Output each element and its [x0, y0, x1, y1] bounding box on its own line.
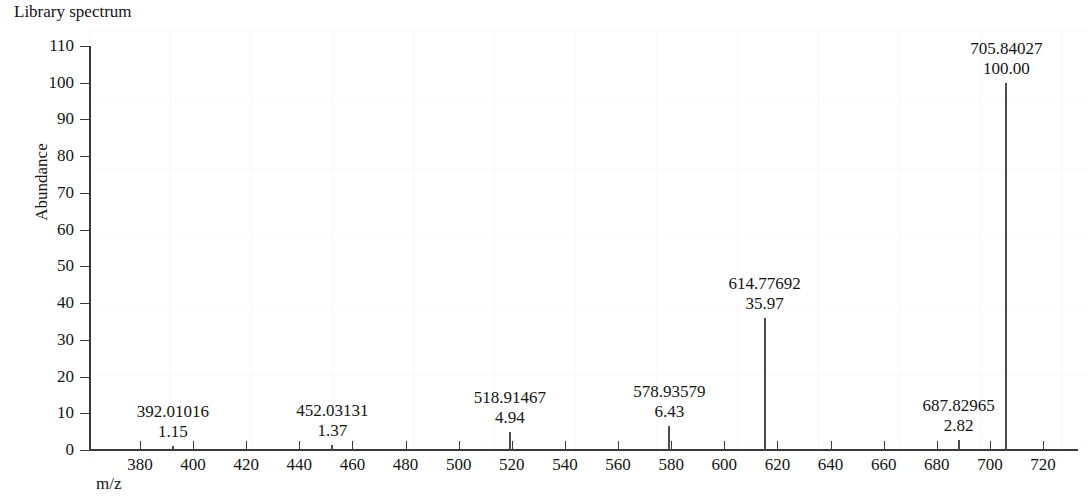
y-tick-30	[80, 340, 89, 341]
y-tick-110	[80, 46, 89, 47]
peak-line	[668, 426, 670, 450]
x-tick-label: 520	[482, 455, 542, 474]
peak-label: 614.7769235.97	[690, 274, 840, 314]
peak-label: 687.829652.82	[884, 396, 1034, 436]
peak-line	[172, 446, 174, 450]
y-tick-label: 70	[34, 184, 74, 201]
x-tick-label: 500	[429, 455, 489, 474]
y-tick-0	[80, 450, 89, 451]
y-tick-50	[80, 266, 89, 267]
spectrum-plot-area: 392.010161.15452.031311.37518.914674.945…	[89, 46, 1078, 450]
peak-label: 578.935796.43	[594, 382, 744, 422]
y-tick-label: 0	[34, 441, 74, 458]
x-tick-label: 400	[163, 455, 223, 474]
y-tick-label: 110	[34, 37, 74, 54]
y-tick-80	[80, 156, 89, 157]
peak-line	[1005, 83, 1007, 450]
x-tick-label: 420	[216, 455, 276, 474]
y-tick-label: 100	[34, 74, 74, 91]
x-tick-label: 660	[854, 455, 914, 474]
y-tick-label: 40	[34, 294, 74, 311]
y-tick-40	[80, 303, 89, 304]
peak-mz-value: 452.03131	[257, 401, 407, 421]
x-tick-label: 720	[1013, 455, 1073, 474]
y-tick-label: 80	[34, 147, 74, 164]
y-tick-90	[80, 119, 89, 120]
y-tick-label: 90	[34, 110, 74, 127]
peak-line	[509, 432, 511, 450]
y-tick-label: 50	[34, 257, 74, 274]
peak-mz-value: 687.82965	[884, 396, 1034, 416]
peak-label: 705.84027100.00	[931, 39, 1081, 79]
peak-mz-value: 578.93579	[594, 382, 744, 402]
peak-label: 452.031311.37	[257, 401, 407, 441]
x-axis-title: m/z	[96, 474, 122, 494]
y-tick-label: 60	[34, 221, 74, 238]
peak-line	[958, 440, 960, 450]
peak-label: 392.010161.15	[98, 402, 248, 442]
peak-abundance-value: 2.82	[884, 416, 1034, 436]
y-tick-label: 20	[34, 368, 74, 385]
peak-abundance-value: 4.94	[435, 408, 585, 428]
x-tick-label: 700	[960, 455, 1020, 474]
peak-mz-value: 392.01016	[98, 402, 248, 422]
y-tick-60	[80, 230, 89, 231]
x-tick-label: 580	[641, 455, 701, 474]
x-tick-label: 380	[110, 455, 170, 474]
x-tick-label: 440	[269, 455, 329, 474]
peak-abundance-value: 6.43	[594, 402, 744, 422]
peak-abundance-value: 100.00	[931, 59, 1081, 79]
y-tick-20	[80, 377, 89, 378]
peak-label: 518.914674.94	[435, 388, 585, 428]
peak-mz-value: 518.91467	[435, 388, 585, 408]
x-tick-label: 640	[801, 455, 861, 474]
peak-abundance-value: 35.97	[690, 294, 840, 314]
y-tick-100	[80, 83, 89, 84]
x-tick-label: 540	[535, 455, 595, 474]
peak-mz-value: 614.77692	[690, 274, 840, 294]
peak-mz-value: 705.84027	[931, 39, 1081, 59]
x-tick-label: 620	[747, 455, 807, 474]
peak-line	[764, 318, 766, 450]
x-tick-label: 480	[376, 455, 436, 474]
peak-line	[331, 445, 333, 450]
y-tick-10	[80, 413, 89, 414]
x-tick-label: 680	[907, 455, 967, 474]
x-tick-label: 560	[588, 455, 648, 474]
peak-abundance-value: 1.15	[98, 422, 248, 442]
y-tick-label: 30	[34, 331, 74, 348]
y-tick-label: 10	[34, 404, 74, 421]
x-tick-label: 460	[322, 455, 382, 474]
y-tick-70	[80, 193, 89, 194]
x-tick-label: 600	[694, 455, 754, 474]
page-title: Library spectrum	[14, 2, 132, 22]
peak-abundance-value: 1.37	[257, 421, 407, 441]
